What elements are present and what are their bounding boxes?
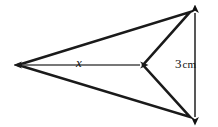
- height-measurement-label: 3cm: [175, 57, 196, 70]
- height-value: 3: [175, 56, 182, 71]
- geometry-figure: x 3cm: [0, 0, 218, 127]
- height-unit: cm: [183, 58, 196, 70]
- base-length-label: x: [76, 56, 82, 69]
